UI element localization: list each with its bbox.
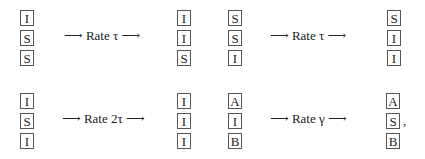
state-box: S: [20, 50, 34, 66]
state-box: I: [228, 113, 242, 129]
state-box: S: [228, 10, 242, 26]
state-box: I: [177, 113, 191, 129]
state-box: I: [20, 10, 34, 26]
state-box: I: [177, 10, 191, 26]
state-box: I: [177, 30, 191, 46]
state-box: B: [228, 133, 242, 149]
rate-arrow-label: ⟶ Rate τ ⟶: [270, 28, 346, 44]
state-box: S: [386, 113, 400, 129]
state-box: I: [228, 50, 242, 66]
rate-arrow-label: ⟶ Rate τ ⟶: [64, 28, 140, 44]
state-box: S: [228, 30, 242, 46]
state-box: S: [177, 50, 191, 66]
state-box: A: [386, 93, 400, 109]
rate-arrow-label: ⟶ Rate 2τ ⟶: [62, 111, 145, 127]
state-box: I: [177, 93, 191, 109]
state-box: I: [20, 133, 34, 149]
state-box: B: [386, 133, 400, 149]
state-box: I: [20, 93, 34, 109]
rate-arrow-label: ⟶ Rate γ ⟶: [270, 111, 347, 127]
state-box: S: [20, 30, 34, 46]
state-box: A: [228, 93, 242, 109]
state-box: I: [387, 30, 401, 46]
state-box: I: [177, 133, 191, 149]
trailing-comma: ,: [403, 113, 406, 129]
state-box: I: [387, 50, 401, 66]
state-box: S: [20, 113, 34, 129]
state-box: S: [387, 10, 401, 26]
